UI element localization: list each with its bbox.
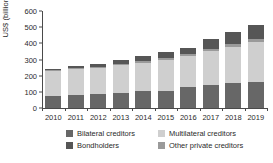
x-axis-tick-label: 2016 bbox=[177, 113, 199, 122]
bar-group bbox=[42, 11, 267, 108]
x-axis-tick-label: 2018 bbox=[222, 113, 244, 122]
bar-segment[interactable] bbox=[68, 95, 84, 108]
bar-column[interactable] bbox=[248, 11, 264, 108]
x-axis-tick-label: 2019 bbox=[245, 113, 267, 122]
x-axis-tick-mark bbox=[267, 108, 268, 111]
x-axis-tick-mark bbox=[65, 108, 66, 111]
bar-segment[interactable] bbox=[225, 47, 241, 83]
x-axis-tick-mark bbox=[222, 108, 223, 111]
bar-column[interactable] bbox=[45, 11, 61, 108]
bar-segment[interactable] bbox=[68, 69, 84, 94]
bar-segment[interactable] bbox=[158, 91, 174, 108]
bar-column[interactable] bbox=[90, 11, 106, 108]
bar-segment[interactable] bbox=[248, 42, 264, 82]
bar-segment[interactable] bbox=[158, 60, 174, 91]
x-axis-tick-mark bbox=[200, 108, 201, 111]
x-axis-tick-mark bbox=[155, 108, 156, 111]
x-axis-tick-mark bbox=[87, 108, 88, 111]
bar-column[interactable] bbox=[180, 11, 196, 108]
legend-item-label: Other private creditors bbox=[169, 141, 243, 150]
x-axis-tick-mark bbox=[132, 108, 133, 111]
bar-segment[interactable] bbox=[135, 63, 151, 91]
bar-segment[interactable] bbox=[113, 93, 129, 108]
bar-segment[interactable] bbox=[248, 25, 264, 38]
x-axis-tick-mark bbox=[245, 108, 246, 111]
legend-item[interactable]: Bilateral creditors bbox=[66, 129, 150, 138]
bar-column[interactable] bbox=[158, 11, 174, 108]
bar-column[interactable] bbox=[113, 11, 129, 108]
plot-area: 0100200300400500600 bbox=[42, 11, 267, 108]
bar-segment[interactable] bbox=[225, 83, 241, 108]
x-axis-labels: 2010201120122013201420152016201720182019 bbox=[42, 113, 267, 122]
bar-segment[interactable] bbox=[203, 51, 219, 85]
bar-segment[interactable] bbox=[180, 56, 196, 88]
x-axis-tick-mark bbox=[110, 108, 111, 111]
bar-column[interactable] bbox=[68, 11, 84, 108]
x-axis-tick-label: 2017 bbox=[200, 113, 222, 122]
bar-segment[interactable] bbox=[180, 87, 196, 108]
y-axis-label: US$ (billion) bbox=[1, 0, 10, 54]
x-axis-tick-label: 2010 bbox=[42, 113, 64, 122]
bar-segment[interactable] bbox=[90, 94, 106, 108]
legend-swatch-icon bbox=[158, 130, 165, 137]
bar-column[interactable] bbox=[203, 11, 219, 108]
legend-swatch-icon bbox=[66, 142, 73, 149]
x-axis-tick-label: 2014 bbox=[132, 113, 154, 122]
x-axis-tick-label: 2015 bbox=[155, 113, 177, 122]
legend-item[interactable]: Bondholders bbox=[66, 141, 150, 150]
x-axis-tick-mark bbox=[42, 108, 43, 111]
bar-column[interactable] bbox=[225, 11, 241, 108]
x-axis-tick-label: 2012 bbox=[87, 113, 109, 122]
legend-item-label: Multilateral creditors bbox=[169, 129, 236, 138]
x-axis-tick-label: 2011 bbox=[65, 113, 87, 122]
bar-segment[interactable] bbox=[45, 96, 61, 108]
legend-item-label: Bilateral creditors bbox=[77, 129, 135, 138]
bar-segment[interactable] bbox=[203, 85, 219, 108]
chart-legend: Bilateral creditorsMultilateral creditor… bbox=[66, 129, 266, 150]
legend-swatch-icon bbox=[158, 142, 165, 149]
bar-segment[interactable] bbox=[135, 91, 151, 108]
x-axis-tick-label: 2013 bbox=[110, 113, 132, 122]
x-axis-tick-mark bbox=[177, 108, 178, 111]
bar-segment[interactable] bbox=[90, 68, 106, 94]
bar-column[interactable] bbox=[135, 11, 151, 108]
legend-item[interactable]: Multilateral creditors bbox=[158, 129, 266, 138]
legend-item[interactable]: Other private creditors bbox=[158, 141, 266, 150]
bar-segment[interactable] bbox=[45, 71, 61, 96]
bar-segment[interactable] bbox=[113, 65, 129, 93]
legend-item-label: Bondholders bbox=[77, 141, 119, 150]
bar-segment[interactable] bbox=[248, 82, 264, 109]
stacked-bar-chart: US$ (billion) 0100200300400500600 201020… bbox=[0, 0, 273, 163]
legend-swatch-icon bbox=[66, 130, 73, 137]
bar-segment[interactable] bbox=[225, 32, 241, 44]
bar-segment[interactable] bbox=[203, 39, 219, 49]
